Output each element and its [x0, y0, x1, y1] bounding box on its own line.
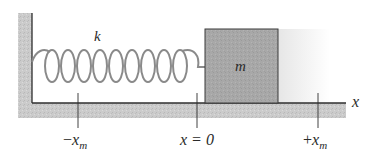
floor [18, 103, 346, 118]
mass-label: m [235, 58, 246, 74]
spring [32, 50, 205, 82]
axis-label: x [351, 93, 359, 110]
wall [18, 13, 32, 105]
spring-mass-diagram: k m x −xm x = 0 +xm [0, 0, 374, 161]
pos-amplitude-label: +xm [303, 131, 327, 151]
equilibrium-label: x = 0 [179, 131, 214, 148]
spring-constant-label: k [94, 28, 101, 44]
motion-shadow [278, 29, 330, 103]
neg-amplitude-label: −xm [63, 131, 87, 151]
